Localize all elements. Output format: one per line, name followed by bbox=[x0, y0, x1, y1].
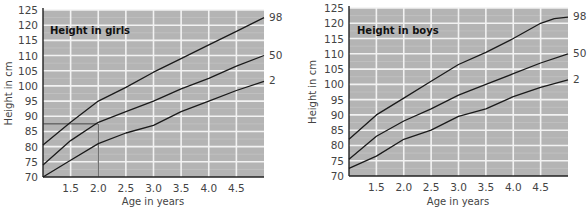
y-tick-label: 110 bbox=[18, 50, 38, 62]
y-axis-label: Height in cm bbox=[307, 60, 318, 124]
x-tick-label: 3.5 bbox=[478, 181, 495, 193]
x-tick-label: 2.0 bbox=[90, 182, 107, 194]
y-tick-label: 120 bbox=[18, 19, 38, 31]
y-tick-label: 105 bbox=[324, 63, 344, 75]
chart-title: Height in girls bbox=[50, 25, 130, 36]
boys-height-chart: 985027075808590951001051101151201251.52.… bbox=[307, 2, 586, 207]
y-tick-label: 125 bbox=[324, 2, 344, 14]
y-tick-label: 85 bbox=[331, 124, 344, 136]
y-tick-label: 70 bbox=[331, 170, 344, 182]
girls-height-chart: 985027075808590951001051101151201251.52.… bbox=[3, 4, 282, 207]
y-tick-label: 90 bbox=[331, 109, 344, 121]
growth-charts: 985027075808590951001051101151201251.52.… bbox=[0, 0, 588, 213]
y-tick-label: 110 bbox=[324, 48, 344, 60]
x-tick-label: 4.0 bbox=[200, 182, 217, 194]
y-tick-label: 105 bbox=[18, 65, 38, 77]
y-tick-label: 75 bbox=[25, 156, 38, 168]
series-label-2: 2 bbox=[573, 73, 580, 85]
series-label-2: 2 bbox=[269, 74, 276, 86]
x-tick-label: 3.0 bbox=[450, 181, 467, 193]
x-axis-label: Age in years bbox=[427, 196, 489, 207]
y-tick-label: 90 bbox=[25, 110, 38, 122]
x-tick-label: 3.0 bbox=[145, 182, 162, 194]
y-tick-label: 80 bbox=[331, 139, 344, 151]
x-tick-label: 3.5 bbox=[173, 182, 190, 194]
series-label-50: 50 bbox=[269, 49, 282, 61]
x-tick-label: 1.5 bbox=[368, 181, 385, 193]
chart-title: Height in boys bbox=[357, 25, 439, 36]
y-tick-label: 95 bbox=[331, 94, 344, 106]
y-tick-label: 70 bbox=[25, 171, 38, 183]
x-tick-label: 4.5 bbox=[228, 182, 245, 194]
x-tick-label: 2.5 bbox=[118, 182, 135, 194]
y-tick-label: 100 bbox=[324, 78, 344, 90]
y-tick-label: 125 bbox=[18, 4, 38, 16]
y-axis-label: Height in cm bbox=[3, 62, 14, 126]
x-tick-label: 4.5 bbox=[532, 181, 549, 193]
y-tick-label: 120 bbox=[324, 17, 344, 29]
y-tick-label: 115 bbox=[324, 33, 344, 45]
series-label-50: 50 bbox=[573, 47, 586, 59]
x-tick-label: 4.0 bbox=[505, 181, 522, 193]
x-tick-label: 2.0 bbox=[395, 181, 412, 193]
x-axis-label: Age in years bbox=[122, 196, 184, 207]
y-tick-label: 95 bbox=[25, 95, 38, 107]
series-label-98: 98 bbox=[573, 10, 586, 22]
y-tick-label: 115 bbox=[18, 34, 38, 46]
x-tick-label: 2.5 bbox=[423, 181, 440, 193]
y-tick-label: 80 bbox=[25, 141, 38, 153]
series-label-98: 98 bbox=[269, 11, 282, 23]
y-tick-label: 100 bbox=[18, 80, 38, 92]
x-tick-label: 1.5 bbox=[62, 182, 79, 194]
y-tick-label: 75 bbox=[331, 155, 344, 167]
y-tick-label: 85 bbox=[25, 125, 38, 137]
